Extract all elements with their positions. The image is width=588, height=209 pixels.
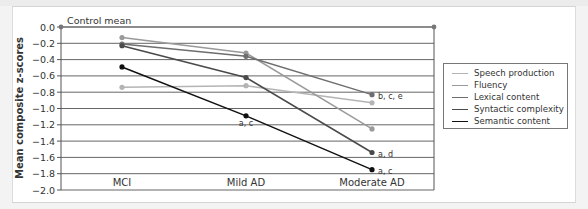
series-lines: [119, 35, 374, 172]
data-point: [369, 167, 374, 172]
legend-swatch: [452, 97, 468, 98]
y-tick-label: −1.4: [32, 136, 55, 147]
annotation-mild-semantic: a, c: [239, 119, 253, 128]
legend-label: Fluency: [474, 80, 507, 90]
y-tick-label: −1.6: [32, 152, 55, 163]
y-axis-ticks: 0.0−0.2−0.4−0.6−0.8−1.0−1.2−1.4−1.6−1.8−…: [32, 22, 61, 196]
annotation-moderate-lexical: b, c, e: [378, 92, 403, 101]
data-point: [119, 35, 124, 40]
y-tick-label: −2.0: [32, 185, 55, 196]
data-point: [369, 126, 374, 131]
legend-swatch: [452, 109, 468, 110]
data-point: [243, 54, 248, 59]
y-tick-label: −1.0: [32, 103, 55, 114]
annotation-moderate-syntactic: a, d: [378, 150, 393, 159]
legend-label: Syntactic complexity: [474, 104, 564, 114]
y-tick-label: 0.0: [40, 22, 55, 33]
y-tick-label: −1.2: [32, 119, 55, 130]
data-point: [369, 150, 374, 155]
data-point: [243, 75, 248, 80]
y-tick-label: −0.6: [32, 70, 55, 81]
x-category-moderate-ad: Moderate AD: [339, 177, 405, 188]
x-category-mci: MCI: [113, 177, 132, 188]
control-mean-label: Control mean: [67, 15, 131, 26]
series-line: [122, 46, 372, 153]
legend: Speech production Fluency Lexical conten…: [443, 63, 568, 129]
legend-label: Semantic content: [474, 116, 550, 126]
series-line: [122, 86, 372, 103]
legend-item-semantic-content: Semantic content: [452, 115, 567, 127]
legend-item-lexical-content: Lexical content: [452, 91, 567, 103]
data-point: [243, 113, 248, 118]
legend-item-fluency: Fluency: [452, 79, 567, 91]
y-tick-label: −1.8: [32, 168, 55, 179]
y-tick-label: −0.8: [32, 87, 55, 98]
legend-item-speech-production: Speech production: [452, 67, 567, 79]
y-tick-label: −0.4: [32, 54, 55, 65]
annotation-moderate-semantic: a, c: [378, 167, 392, 176]
control-mean-marker-right: [432, 25, 437, 30]
legend-label: Speech production: [474, 68, 555, 78]
legend-swatch: [452, 73, 468, 74]
control-mean-marker-left: [59, 25, 64, 30]
x-category-mild-ad: Mild AD: [227, 177, 266, 188]
data-point: [119, 64, 124, 69]
y-axis-label: Mean composite z-scores: [14, 37, 25, 179]
legend-label: Lexical content: [474, 92, 539, 102]
y-tick-label: −0.2: [32, 38, 55, 49]
legend-item-syntactic-complexity: Syntactic complexity: [452, 103, 567, 115]
data-point: [369, 92, 374, 97]
data-point: [119, 85, 124, 90]
data-point: [119, 43, 124, 48]
data-point: [369, 100, 374, 105]
legend-swatch: [452, 85, 468, 86]
data-point: [243, 83, 248, 88]
legend-swatch: [452, 121, 468, 122]
